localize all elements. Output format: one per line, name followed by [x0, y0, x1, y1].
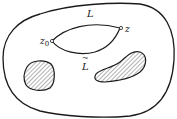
point-z: [119, 26, 122, 29]
diagram-canvas: L z0 z L ~: [0, 0, 177, 119]
hole-left-hatched: [24, 61, 54, 91]
label-z: z: [124, 24, 130, 34]
point-z0: [50, 39, 53, 42]
label-L-tilde-accent: ~: [82, 54, 89, 63]
label-L: L: [86, 8, 94, 19]
